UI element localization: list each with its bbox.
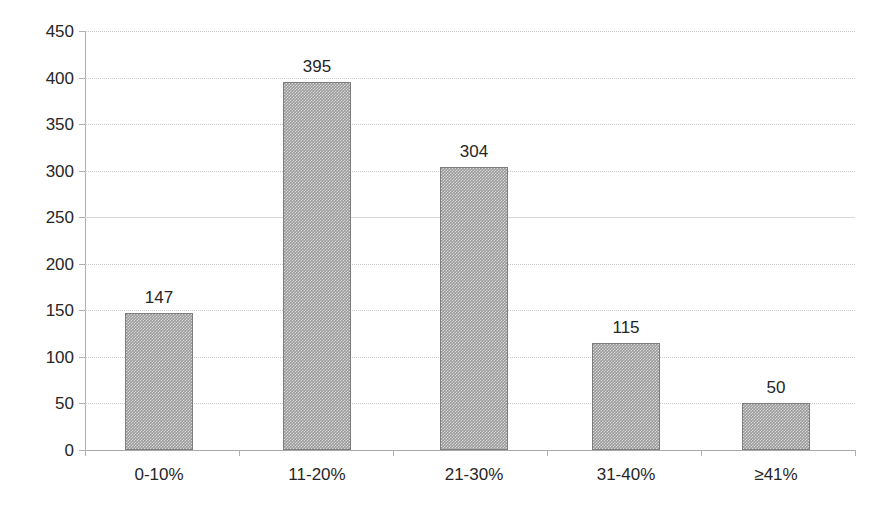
- x-tick-label-0-10: 0-10%: [134, 466, 183, 483]
- y-tick-label: 350: [4, 116, 74, 133]
- gridline-350: [85, 124, 855, 125]
- bar-value-21-30: 304: [460, 143, 488, 160]
- y-tick-label: 300: [4, 162, 74, 179]
- x-tick: [393, 450, 394, 456]
- gridline-0: [85, 450, 855, 451]
- x-tick: [239, 450, 240, 456]
- x-tick-label-11-20: 11-20%: [288, 466, 345, 483]
- gridline-400: [85, 78, 855, 79]
- x-tick: [547, 450, 548, 456]
- bar-value-11-20: 395: [303, 58, 331, 75]
- plot-area: [85, 31, 855, 450]
- y-tick-label: 200: [4, 255, 74, 272]
- bar-value-31-40: 115: [612, 319, 639, 336]
- x-tick-label-21-30: 21-30%: [445, 466, 504, 483]
- x-tick-label-31-40: 31-40%: [597, 466, 656, 483]
- bar-value-0-10: 147: [145, 289, 173, 306]
- x-tick: [85, 450, 86, 456]
- y-tick-label: 0: [4, 442, 74, 459]
- y-tick-label: 450: [4, 23, 74, 40]
- bar-0-10[interactable]: [125, 313, 193, 450]
- y-tick-label: 100: [4, 348, 74, 365]
- bar-11-20[interactable]: [283, 82, 351, 450]
- y-tick-label: 250: [4, 209, 74, 226]
- y-tick-label: 150: [4, 302, 74, 319]
- bar-31-40[interactable]: [592, 343, 660, 450]
- x-tick: [701, 450, 702, 456]
- x-tick-label-ge-41: ≥41%: [754, 466, 797, 483]
- bar-21-30[interactable]: [440, 167, 508, 450]
- bar-ge-41[interactable]: [742, 403, 810, 450]
- gridline-450: [85, 31, 855, 32]
- y-tick-label: 50: [4, 395, 74, 412]
- y-tick-label: 400: [4, 69, 74, 86]
- x-tick: [855, 450, 856, 456]
- y-axis-labels: 0 50 100 150 200 250 300 350 400 450: [0, 0, 74, 518]
- bar-chart: 0 50 100 150 200 250 300 350 400 450: [0, 0, 885, 518]
- bar-value-ge-41: 50: [767, 379, 786, 396]
